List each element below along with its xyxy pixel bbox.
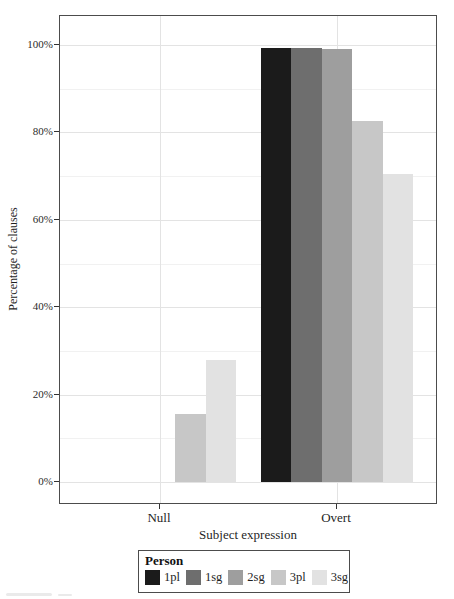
y-tick-mark [54,131,59,132]
legend: Person 1pl1sg2sg3pl3sg [138,550,350,593]
bar-overt-3pl [352,121,383,482]
plot-panel [59,15,437,504]
y-tick-mark [54,219,59,220]
legend-title: Person [145,554,343,568]
legend-label-1pl: 1pl [164,570,180,585]
y-tick-label: 0% [9,474,53,488]
bar-null-3pl [175,414,206,482]
legend-swatch-3pl [271,570,286,585]
y-tick-mark [54,394,59,395]
y-tick-label: 100% [9,37,53,51]
caption-artifact [6,593,52,596]
legend-label-3pl: 3pl [290,570,306,585]
bar-null-3sg [206,360,237,482]
y-tick-mark [54,306,59,307]
bar-overt-3sg [383,174,414,482]
legend-swatch-2sg [228,570,243,585]
legend-item-2sg: 2sg [228,570,264,585]
legend-swatch-1sg [186,570,201,585]
y-tick-label: 20% [9,387,53,401]
legend-label-2sg: 2sg [247,570,264,585]
legend-swatch-3sg [312,570,327,585]
y-tick-mark [54,44,59,45]
x-category-label: Null [114,510,204,525]
x-category-label: Overt [291,510,381,525]
y-tick-label: 80% [9,124,53,138]
legend-swatch-1pl [145,570,160,585]
legend-label-1sg: 1sg [205,570,222,585]
caption-artifact [58,594,72,596]
x-axis-title: Subject expression [148,527,348,543]
legend-item-1pl: 1pl [145,570,180,585]
bar-chart-figure: 0%20%40%60%80%100% NullOvert Percentage … [0,0,454,599]
legend-label-3sg: 3sg [331,570,348,585]
bar-overt-2sg [322,49,353,482]
x-tick-mark [159,504,160,509]
legend-item-3sg: 3sg [312,570,348,585]
y-axis-title: Percentage of clauses [6,159,20,359]
legend-item-3pl: 3pl [271,570,306,585]
x-tick-mark [336,504,337,509]
legend-item-1sg: 1sg [186,570,222,585]
legend-items: 1pl1sg2sg3pl3sg [145,570,343,585]
bar-overt-1pl [261,48,292,482]
y-tick-mark [54,481,59,482]
bars-layer [60,16,436,503]
bar-overt-1sg [291,48,322,482]
